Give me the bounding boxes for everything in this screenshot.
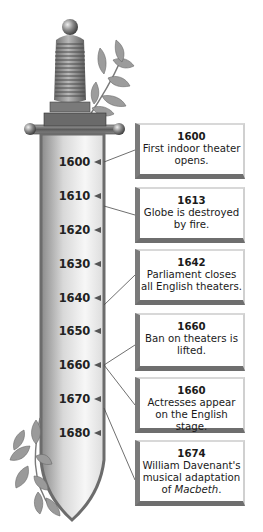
event-text: Actresses appear on the English stage. xyxy=(140,397,243,433)
tick-label-1650: 1650 xyxy=(56,324,90,338)
event-text: Ban on theaters is lifted. xyxy=(140,333,243,357)
event-box-1660-actresses: 1660 Actresses appear on the English sta… xyxy=(135,377,245,433)
event-year: 1642 xyxy=(140,257,243,269)
tick-label-1630: 1630 xyxy=(56,257,90,271)
sword-grip-icon xyxy=(50,35,90,112)
tick-label-1610: 1610 xyxy=(56,189,90,203)
event-text: First indoor theater opens. xyxy=(140,143,243,167)
event-box-1674: 1674 William Davenant's musical adaptati… xyxy=(135,440,245,506)
tick-label-1620: 1620 xyxy=(56,223,90,237)
crossguard-icon xyxy=(24,113,125,135)
tick-label-1600: 1600 xyxy=(56,155,90,169)
sword-timeline-diagram: 1600 1610 1620 1630 1640 1650 1660 1670 … xyxy=(0,0,263,532)
tick-label-1670: 1670 xyxy=(56,392,90,406)
event-year: 1660 xyxy=(140,385,243,397)
event-box-1642: 1642 Parliament closes all English theat… xyxy=(135,249,245,305)
event-year: 1674 xyxy=(140,448,243,460)
event-text-suffix: . xyxy=(218,484,221,495)
event-text: Parliament closes all English theaters. xyxy=(140,269,243,293)
laurel-branch-top-icon xyxy=(88,40,134,118)
tick-label-1680: 1680 xyxy=(56,426,90,440)
tick-label-1660: 1660 xyxy=(56,358,90,372)
pommel-icon xyxy=(62,19,78,35)
event-text: Globe is destroyed by fire. xyxy=(140,207,243,231)
event-year: 1600 xyxy=(140,131,243,143)
event-year: 1660 xyxy=(140,321,243,333)
tick-label-1640: 1640 xyxy=(56,291,90,305)
event-text: William Davenant's musical adaptation of… xyxy=(140,460,243,496)
event-year: 1613 xyxy=(140,195,243,207)
event-box-1600: 1600 First indoor theater opens. xyxy=(135,123,245,179)
event-box-1613: 1613 Globe is destroyed by fire. xyxy=(135,187,245,243)
event-box-1660-ban-lifted: 1660 Ban on theaters is lifted. xyxy=(135,313,245,371)
play-title: Macbeth xyxy=(174,484,218,495)
connector-lines xyxy=(104,150,135,480)
